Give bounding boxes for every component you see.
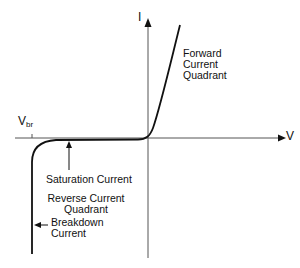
saturation-arrow-icon: [66, 141, 72, 148]
vbr-sub: br: [26, 120, 33, 129]
i-axis-label: I: [138, 12, 141, 23]
reverse-line-2: Quadrant: [46, 204, 126, 215]
breakdown-arrow-icon: [34, 222, 41, 228]
saturation-current-label: Saturation Current: [46, 174, 132, 185]
breakdown-line-2: Current: [51, 228, 104, 239]
i-axis-arrow-icon: [145, 18, 152, 27]
v-axis-label: V: [286, 131, 294, 142]
reverse-quadrant-label: Reverse Current Quadrant: [46, 193, 126, 215]
v-axis-arrow-icon: [278, 135, 286, 142]
vbr-main: V: [18, 114, 26, 128]
vbr-label: Vbr: [18, 116, 33, 130]
forward-quadrant-label: Forward Current Quadrant: [183, 48, 227, 81]
breakdown-current-label: Breakdown Current: [51, 217, 104, 239]
iv-curve-diagram: [0, 0, 300, 268]
forward-line-3: Quadrant: [183, 70, 227, 81]
